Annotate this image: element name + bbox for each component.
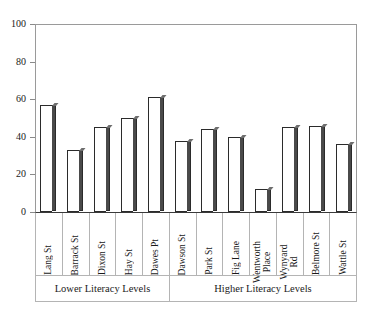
bar-top-face xyxy=(160,95,167,98)
bar-side-face xyxy=(240,137,244,211)
category-label: Wattle St xyxy=(338,238,349,275)
plot-area xyxy=(35,24,357,212)
bar-side-face xyxy=(321,126,325,211)
y-tick-label: 20 xyxy=(16,169,26,179)
bar-top-face xyxy=(187,139,194,142)
bar xyxy=(282,127,294,212)
bar xyxy=(121,118,133,212)
bar-side-face xyxy=(133,118,137,211)
bar xyxy=(67,150,79,212)
bar-side-face xyxy=(106,127,110,211)
category-label: Barrack St xyxy=(70,233,81,275)
category-label-cell: Barrack St xyxy=(63,213,90,275)
bar-top-face xyxy=(240,135,247,138)
category-label: Dawson St xyxy=(177,232,188,275)
bar-top-face xyxy=(213,127,220,130)
bar-side-face xyxy=(52,105,56,211)
y-tick-label: 0 xyxy=(21,207,26,217)
bar xyxy=(148,97,160,212)
bar xyxy=(40,105,52,212)
bar-side-face xyxy=(213,129,217,211)
group-label: Lower Literacy Levels xyxy=(55,283,151,294)
category-label-cell: Park St xyxy=(197,213,224,275)
bar xyxy=(336,144,348,212)
bar xyxy=(201,129,213,212)
bar-top-face xyxy=(294,125,301,128)
bar-side-face xyxy=(160,97,164,211)
bar-top-face xyxy=(79,148,86,151)
category-label: Fig Lane xyxy=(231,239,242,275)
category-label-cell: Dixon St xyxy=(90,213,117,275)
bar-side-face xyxy=(348,144,352,211)
group-label-cell: Higher Literacy Levels xyxy=(170,276,356,301)
category-label-cell: WynyardRd xyxy=(277,213,304,275)
y-tick-label: 40 xyxy=(16,132,26,142)
category-label-cell: WentworthPlace xyxy=(250,213,277,275)
bar xyxy=(175,141,187,212)
bar-top-face xyxy=(321,124,328,127)
bar-side-face xyxy=(267,189,271,211)
bar-side-face xyxy=(79,150,83,211)
group-label-row: Lower Literacy LevelsHigher Literacy Lev… xyxy=(35,275,357,302)
category-label: Dawes Pt xyxy=(150,237,161,275)
y-tick-label: 80 xyxy=(16,57,26,67)
bar xyxy=(94,127,106,212)
bar-chart-figure: 020406080100 Lang StBarrack StDixon StHa… xyxy=(0,0,384,314)
y-tick-label: 60 xyxy=(16,94,26,104)
category-label-cell: Fig Lane xyxy=(223,213,250,275)
group-label-cell: Lower Literacy Levels xyxy=(36,276,170,301)
group-label: Higher Literacy Levels xyxy=(214,283,311,294)
category-label: Hay St xyxy=(124,247,135,275)
bar-top-face xyxy=(106,125,113,128)
category-label-cell: Lang St xyxy=(36,213,63,275)
category-label: Park St xyxy=(204,245,215,275)
category-label-cell: Dawson St xyxy=(170,213,197,275)
y-axis: 020406080100 xyxy=(0,0,30,314)
category-label-cell: Wattle St xyxy=(330,213,356,275)
y-tick-label: 100 xyxy=(11,19,26,29)
bar-top-face xyxy=(133,116,140,119)
bar-top-face xyxy=(52,103,59,106)
category-label-cell: Belmore St xyxy=(304,213,331,275)
category-label-grid: Lang StBarrack StDixon StHay StDawes PtD… xyxy=(35,213,357,275)
bar-side-face xyxy=(294,127,298,211)
category-label-cell: Hay St xyxy=(116,213,143,275)
category-label: Belmore St xyxy=(311,230,322,275)
bar-side-face xyxy=(187,141,191,211)
bar xyxy=(255,189,267,212)
bar xyxy=(309,126,321,212)
bar-top-face xyxy=(348,142,355,145)
category-label-cell: Dawes Pt xyxy=(143,213,170,275)
category-label: Dixon St xyxy=(97,239,108,275)
bar xyxy=(228,137,240,212)
category-label: Lang St xyxy=(43,243,54,275)
